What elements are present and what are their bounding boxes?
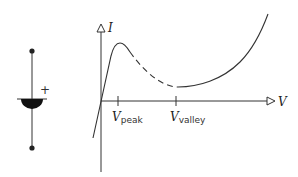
curve-segment-negative-resistance [130,52,178,87]
tick-valley-subscript: valley [179,115,206,125]
x-axis-arrow-icon [267,97,275,105]
diagram-canvas: + I V Vpeak Vvalley [0,0,298,177]
tick-peak-label: Vpeak [112,110,143,125]
x-axis-label: V [278,95,288,109]
tunnel-diode-symbol: + [17,48,50,150]
tick-peak: Vpeak [112,96,143,125]
y-axis-arrow-icon [97,24,105,32]
curve-segment-rising-after-valley [178,14,268,87]
tick-valley: Vvalley [170,96,206,125]
tick-valley-label: Vvalley [170,110,206,125]
tick-peak-subscript: peak [121,115,144,125]
axes: I V [97,21,288,172]
polarity-plus-label: + [40,83,50,97]
terminal-bottom-dot [29,145,34,150]
y-axis-label: I [107,21,113,35]
diode-semicircle [21,99,43,109]
terminal-top-dot [29,48,34,53]
